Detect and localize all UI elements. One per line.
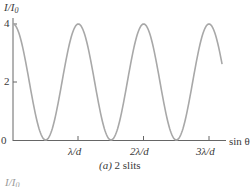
intensity-curve: [13, 24, 222, 140]
caption-text: 2 slits: [112, 159, 141, 171]
x-tick-label-2: 2λ/d: [130, 146, 149, 157]
y-tick-label-0: 0: [1, 135, 7, 146]
y-label-sub: 0: [14, 6, 18, 15]
x-axis-label: sin θ: [229, 136, 250, 147]
x-tick-label-3: 3λ/d: [196, 146, 215, 157]
caption-part-label: (a): [99, 159, 112, 171]
y-tick-label-2: 2: [4, 76, 10, 87]
chart-caption: (a) 2 slits: [99, 160, 141, 171]
x-tick-label-1: λ/d: [68, 146, 81, 157]
y-tick-label-4: 4: [4, 18, 10, 29]
x-axis-label-text: sin θ: [229, 135, 250, 147]
y-axis-label: I/I0: [4, 2, 18, 16]
next-chart-y-axis-label: I/I0: [5, 177, 19, 187]
next-y-label-sub: 0: [15, 181, 19, 187]
